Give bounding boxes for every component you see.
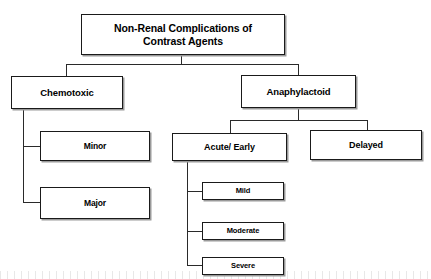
node-delayed-label: Delayed [349, 140, 383, 151]
node-severe-label: Severe [231, 262, 255, 271]
node-acute-early-label: Acute/ Early [204, 142, 255, 153]
connector-acute-spine [187, 160, 188, 266]
node-minor-label: Minor [84, 141, 107, 151]
node-major-label: Major [84, 198, 106, 208]
connector-acute-to-moderate [187, 231, 203, 232]
connector-chemotoxic-spine [23, 108, 24, 203]
connector-to-acute-early [230, 120, 231, 134]
node-chemotoxic[interactable]: Chemotoxic [11, 76, 123, 109]
node-root[interactable]: Non-Renal Complications of Contrast Agen… [81, 14, 285, 55]
flowchart-canvas: Non-Renal Complications of Contrast Agen… [0, 0, 431, 279]
connector-level2-bus [230, 120, 368, 121]
connector-chemotoxic-to-minor [23, 146, 41, 147]
node-mild-label: Mild [236, 187, 251, 196]
connector-acute-to-mild [187, 191, 203, 192]
node-mild[interactable]: Mild [202, 182, 284, 200]
node-severe[interactable]: Severe [202, 257, 284, 275]
node-major[interactable]: Major [40, 187, 150, 219]
node-moderate[interactable]: Moderate [202, 222, 284, 240]
connector-acute-to-severe [187, 265, 203, 266]
node-chemotoxic-label: Chemotoxic [40, 87, 93, 98]
node-minor[interactable]: Minor [40, 131, 150, 161]
node-anaphylactoid[interactable]: Anaphylactoid [241, 75, 356, 108]
node-anaphylactoid-label: Anaphylactoid [266, 86, 330, 97]
node-moderate-label: Moderate [227, 227, 260, 236]
node-delayed[interactable]: Delayed [310, 130, 422, 160]
connector-chemotoxic-to-major [23, 202, 41, 203]
node-acute-early[interactable]: Acute/ Early [172, 133, 287, 161]
node-root-label: Non-Renal Complications of Contrast Agen… [114, 22, 252, 47]
connector-level1-bus [66, 64, 299, 65]
